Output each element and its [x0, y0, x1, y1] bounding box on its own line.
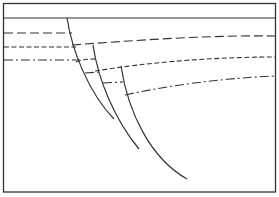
- diagram-frame: [4, 4, 276, 193]
- fault-cross-section-diagram: [0, 0, 279, 197]
- fault-2-line: [93, 45, 139, 149]
- horizon-1-long-dash-segment: [72, 36, 276, 45]
- horizon-2-short-dash-segment: [95, 57, 276, 71]
- horizon-3-dash-dot-segment: [85, 72, 100, 73]
- listric-faults: [67, 18, 187, 179]
- horizon-3-dash-dot-segment: [125, 76, 276, 95]
- fault-3-line: [121, 66, 187, 179]
- horizon-3-dash-dot-segment: [103, 82, 123, 83]
- fault-1-line: [67, 18, 114, 119]
- strata-horizons: [4, 33, 276, 95]
